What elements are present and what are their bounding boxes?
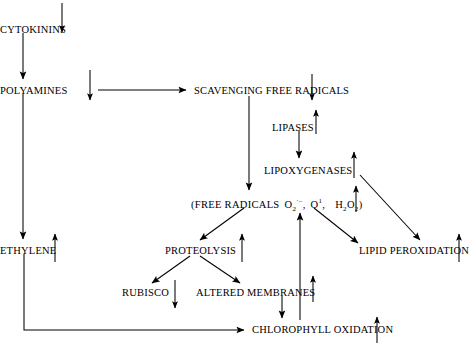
node-free-radicals-formula: (FREE RADICALSO2·–,O1,H2O2) <box>191 198 362 213</box>
separator-2: , <box>322 199 325 210</box>
species-superoxide-sub: 2 <box>292 205 296 213</box>
pathway-diagram: CYTOKININS POLYAMINES ETHYLENE SCAVENGIN… <box>0 0 470 347</box>
node-scavenging-free-radicals: SCAVENGING FREE RADICALS <box>194 86 349 97</box>
node-polyamines: POLYAMINES <box>0 86 67 97</box>
node-chlorophyll-oxidation: CHLOROPHYLL OXIDATION <box>252 325 393 336</box>
arrow-proteolysis-to-rubisco <box>152 256 190 283</box>
paren-close: ) <box>359 199 363 210</box>
node-proteolysis: PROTEOLYSIS <box>165 246 236 257</box>
species-peroxide-o: O <box>347 199 355 210</box>
arrow-proteolysis-to-altered <box>200 256 240 283</box>
arrow-free-radicals-to-lipidperox <box>314 208 358 243</box>
node-ethylene: ETHYLENE <box>0 246 56 257</box>
node-cytokinins: CYTOKININS <box>0 25 66 36</box>
node-rubisco: RUBISCO <box>122 288 169 299</box>
arrow-lipoxygenases-to-lipidperox <box>360 175 420 240</box>
arrow-free-radicals-to-proteolysis <box>200 208 244 240</box>
node-lipases: LIPASES <box>272 123 314 134</box>
free-radicals-label: FREE RADICALS <box>195 199 280 210</box>
node-lipoxygenases: LIPOXYGENASES <box>264 166 352 177</box>
separator-1: , <box>303 199 306 210</box>
node-lipid-peroxidation: LIPID PEROXIDATION <box>359 246 469 257</box>
node-altered-membranes: ALTERED MEMBRANES <box>196 288 315 299</box>
species-peroxide-h: H <box>335 199 343 210</box>
